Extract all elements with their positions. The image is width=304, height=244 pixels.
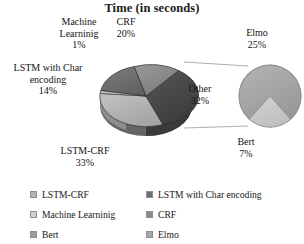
legend-item-lstm-with-char-encoding[interactable]: LSTM with Char encoding xyxy=(146,189,278,200)
data-label-bert: Bert 7% xyxy=(222,136,270,159)
legend-swatch-machine-learninig xyxy=(30,211,37,218)
data-label-lstm-with-char-encoding: LSTM with Char encoding 14% xyxy=(2,62,94,97)
legend-swatch-lstm-with-char-encoding xyxy=(146,191,153,198)
legend-item-lstm-crf[interactable]: LSTM-CRF xyxy=(30,189,146,200)
pie-of-pie-chart: Time (in seconds) xyxy=(0,0,304,244)
data-label-machine-learninig-line1: Machine xyxy=(62,16,97,27)
data-label-bert-pct: 7% xyxy=(222,148,270,160)
chart-legend: LSTM-CRF LSTM with Char encoding Machine… xyxy=(30,184,278,244)
legend-item-crf[interactable]: CRF xyxy=(146,209,278,220)
legend-item-machine-learninig[interactable]: Machine Learninig xyxy=(30,209,146,220)
legend-swatch-crf xyxy=(146,211,153,218)
secondary-pie xyxy=(239,65,302,128)
legend-label-machine-learninig: Machine Learninig xyxy=(42,209,115,220)
legend-swatch-bert xyxy=(30,231,37,238)
data-label-lstm-crf-pct: 33% xyxy=(50,157,120,169)
data-label-other-name: Other xyxy=(189,83,212,94)
data-label-other: Other 32% xyxy=(178,83,222,106)
legend-label-elmo: Elmo xyxy=(158,229,179,240)
legend-label-bert: Bert xyxy=(42,229,59,240)
data-label-lstm-with-char-encoding-line2: encoding xyxy=(30,74,67,85)
data-label-lstm-with-char-encoding-pct: 14% xyxy=(2,85,94,97)
data-label-crf-pct: 20% xyxy=(106,28,146,40)
data-label-bert-name: Bert xyxy=(237,136,254,147)
data-label-machine-learninig-line2: Learninig xyxy=(60,28,99,39)
legend-label-crf: CRF xyxy=(158,209,176,220)
legend-swatch-lstm-crf xyxy=(30,191,37,198)
data-label-crf-name: CRF xyxy=(117,16,136,27)
data-label-machine-learninig: Machine Learninig 1% xyxy=(52,16,106,51)
legend-swatch-elmo xyxy=(146,231,153,238)
data-label-elmo: Elmo 25% xyxy=(234,27,280,50)
legend-item-elmo[interactable]: Elmo xyxy=(146,229,278,240)
legend-label-lstm-crf: LSTM-CRF xyxy=(42,189,89,200)
data-label-other-pct: 32% xyxy=(178,95,222,107)
legend-item-bert[interactable]: Bert xyxy=(30,229,146,240)
data-label-elmo-name: Elmo xyxy=(246,27,268,38)
data-label-crf: CRF 20% xyxy=(106,16,146,39)
legend-label-lstm-with-char-encoding: LSTM with Char encoding xyxy=(158,189,262,200)
data-label-lstm-crf-name: LSTM-CRF xyxy=(61,145,110,156)
data-label-elmo-pct: 25% xyxy=(234,39,280,51)
data-label-machine-learninig-pct: 1% xyxy=(52,39,106,51)
data-label-lstm-crf: LSTM-CRF 33% xyxy=(50,145,120,168)
data-label-lstm-with-char-encoding-line1: LSTM with Char xyxy=(14,62,83,73)
